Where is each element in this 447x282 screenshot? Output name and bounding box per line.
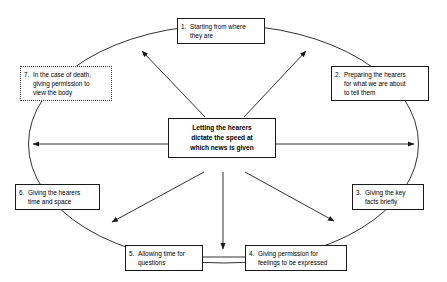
node-5-line-1: 5. Allowing time for (129, 249, 199, 258)
node-5-line-2: questions (129, 258, 199, 267)
node-1-line-2: they are (181, 31, 261, 40)
node-4-text-line-1: Giving permission for (258, 249, 343, 258)
node-2-line-2: for what we are about (335, 79, 425, 88)
node-7-line-2: giving permission to (24, 79, 108, 88)
arrow-center-to-node-4 (245, 172, 334, 221)
node-box-2[interactable]: 2. Preparing the hearers for what we are… (331, 66, 429, 101)
node-7-line-1: 7. In the case of death, (24, 70, 108, 79)
node-7-text-line-2: giving permission to (33, 79, 108, 88)
node-3-number: 3. (356, 188, 365, 197)
node-2-text-line-2: for what we are about (344, 79, 425, 88)
arrow-center-to-node-2 (244, 51, 306, 117)
node-1-text-line-2: they are (190, 31, 261, 40)
node-7-text-line-1: In the case of death, (33, 70, 108, 79)
node-4-text-line-2: feelings to be expressed (258, 258, 343, 267)
node-1-line-1: 1. Starting from where (181, 22, 261, 31)
node-3-line-1: 3. Giving the key (356, 188, 420, 197)
node-5-text-line-2: questions (138, 258, 199, 267)
node-4-line-1: 4. Giving permission for (249, 249, 343, 258)
node-box-6[interactable]: 6. Giving the hearers time and space (15, 184, 100, 210)
node-2-line-3: to tell them (335, 88, 425, 97)
node-5-number: 5. (129, 249, 138, 258)
node-6-text-line-1: Giving the hearers (28, 188, 96, 197)
node-6-number: 6. (19, 188, 28, 197)
node-2-line-1: 2. Preparing the hearers (335, 70, 425, 79)
arrow-center-to-node-5 (112, 172, 204, 222)
node-box-3[interactable]: 3. Giving the key facts briefly (352, 184, 424, 210)
node-3-line-2: facts briefly (356, 197, 420, 206)
node-2-text-line-3: to tell them (344, 88, 425, 97)
center-box[interactable]: Letting the hearers dictate the speed at… (168, 118, 276, 158)
node-6-line-2: time and space (19, 197, 96, 206)
node-7-text-line-3: view the body (33, 88, 108, 97)
node-2-number: 2. (335, 70, 344, 79)
node-7-line-3: view the body (24, 88, 108, 97)
arrow-center-to-node-1 (142, 51, 205, 117)
diagram-canvas: 1. Starting from where they are 2. Prepa… (0, 0, 447, 282)
center-text-line-2: dictate the speed at (172, 133, 272, 143)
node-3-text-line-1: Giving the key (365, 188, 420, 197)
node-6-text-line-2: time and space (28, 197, 96, 206)
node-box-7[interactable]: 7. In the case of death, giving permissi… (20, 66, 112, 101)
center-text-line-3: which news is given (172, 143, 272, 153)
node-7-number: 7. (24, 70, 33, 79)
node-4-line-2: feelings to be expressed (249, 258, 343, 267)
node-4-number: 4. (249, 249, 258, 258)
node-3-text-line-2: facts briefly (365, 197, 420, 206)
node-box-1[interactable]: 1. Starting from where they are (177, 18, 265, 44)
node-1-text-line-1: Starting from where (190, 22, 261, 31)
node-box-5[interactable]: 5. Allowing time for questions (125, 245, 203, 271)
node-box-4[interactable]: 4. Giving permission for feelings to be … (245, 245, 347, 271)
node-1-number: 1. (181, 22, 190, 31)
node-6-line-1: 6. Giving the hearers (19, 188, 96, 197)
center-text-line-1: Letting the hearers (172, 123, 272, 133)
node-2-text-line-1: Preparing the hearers (344, 70, 425, 79)
node-5-text-line-1: Allowing time for (138, 249, 199, 258)
